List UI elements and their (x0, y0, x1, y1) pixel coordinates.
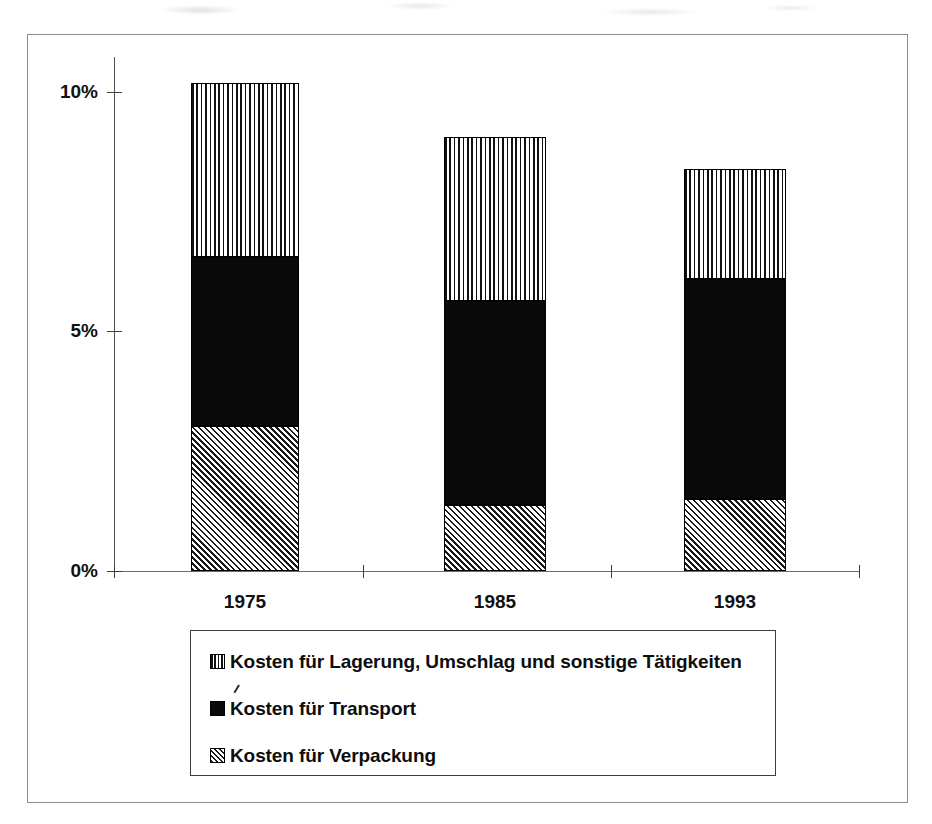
legend-swatch-vertical-stripes-icon (210, 654, 225, 669)
legend-swatch-solid-black-icon (210, 701, 225, 716)
scan-artifact-tick (233, 685, 239, 693)
legend-label-lagerung: Kosten für Lagerung, Umschlag und sonsti… (230, 651, 742, 672)
y-axis-line (114, 57, 115, 572)
x-category-label-1985: 1985 (425, 592, 565, 612)
bar-segment-1985-verpackung[interactable] (444, 505, 546, 571)
x-category-label-1993: 1993 (665, 592, 805, 612)
figure-frame: 10% 5% 0% 1975 1985 1993 (27, 34, 908, 803)
x-tick-2 (611, 565, 612, 578)
legend-item-lagerung[interactable]: Kosten für Lagerung, Umschlag und sonsti… (210, 650, 742, 672)
bar-segment-1993-transport[interactable] (684, 279, 786, 499)
y-tick-5 (107, 331, 122, 332)
scanned-page: 10% 5% 0% 1975 1985 1993 (0, 0, 932, 824)
legend-label-transport: Kosten für Transport (230, 698, 416, 719)
scan-artifact (90, 0, 850, 26)
bar-segment-1975-verpackung[interactable] (191, 426, 299, 571)
x-axis-line (114, 571, 859, 572)
x-tick-1 (363, 565, 364, 578)
x-tick-end (859, 565, 860, 578)
y-tick-10 (107, 92, 122, 93)
legend-label-verpackung: Kosten für Verpackung (230, 745, 436, 766)
y-tick-label-10: 10% (34, 82, 98, 101)
bar-segment-1985-lagerung[interactable] (444, 137, 546, 301)
legend-item-verpackung[interactable]: Kosten für Verpackung (210, 744, 436, 766)
legend-item-transport[interactable]: Kosten für Transport (210, 697, 416, 719)
bar-group-1985[interactable] (444, 137, 546, 571)
bar-segment-1985-transport[interactable] (444, 301, 546, 505)
x-tick-start (114, 565, 115, 578)
bar-segment-1975-transport[interactable] (191, 257, 299, 426)
chart-legend: Kosten für Lagerung, Umschlag und sonsti… (190, 630, 776, 776)
bar-group-1993[interactable] (684, 169, 786, 571)
y-tick-label-5: 5% (34, 321, 98, 340)
bar-segment-1993-lagerung[interactable] (684, 169, 786, 279)
legend-swatch-diagonal-hatch-icon (210, 748, 225, 763)
bar-segment-1993-verpackung[interactable] (684, 499, 786, 571)
plot-area: 10% 5% 0% 1975 1985 1993 (28, 35, 909, 804)
x-category-label-1975: 1975 (175, 592, 315, 612)
bar-segment-1975-lagerung[interactable] (191, 83, 299, 257)
bar-group-1975[interactable] (191, 83, 299, 571)
y-tick-label-0: 0% (34, 561, 98, 580)
